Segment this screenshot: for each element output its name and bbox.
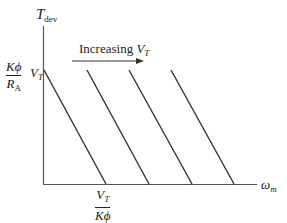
torque-speed-line-4 xyxy=(171,70,234,184)
torque-speed-line-3 xyxy=(129,70,192,184)
characteristic-lines xyxy=(44,70,234,184)
y-intercept-fraction: Kϕ RA xyxy=(6,60,21,95)
x-intercept-fraction: VT Kϕ xyxy=(95,188,110,223)
x-axis-label: ωm xyxy=(261,177,277,194)
torque-speed-plot xyxy=(0,0,287,223)
y-axis-label: Tdev xyxy=(36,6,57,24)
arrow-head-icon xyxy=(136,58,144,64)
increasing-vt-annotation: Increasing VT xyxy=(79,41,149,58)
y-intercept-vt: VT xyxy=(30,65,43,82)
